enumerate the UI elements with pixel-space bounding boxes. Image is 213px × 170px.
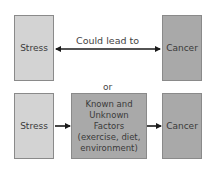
connector-arrows [0,0,213,170]
